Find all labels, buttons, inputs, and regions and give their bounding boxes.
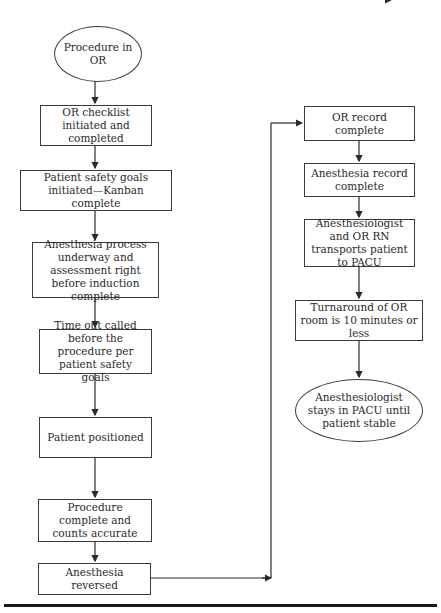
node-procedure-in-or: Procedure in OR: [54, 26, 142, 82]
node-patient-safety-goals: Patient safety goals initiated—Kanban co…: [20, 170, 172, 211]
flowchart-canvas: Procedure in OR OR checklist initiated a…: [0, 0, 441, 613]
node-patient-positioned: Patient positioned: [39, 417, 152, 458]
node-time-out: Time out called before the procedure per…: [39, 329, 152, 374]
node-anesthesiologist-stays: Anesthesiologist stays in PACU until pat…: [295, 379, 423, 442]
node-anesthesia-process: Anesthesia process underway and assessme…: [32, 242, 159, 298]
node-transport-to-pacu: Anesthesiologist and OR RN transports pa…: [304, 219, 415, 267]
node-anesthesia-record: Anesthesia record complete: [304, 163, 415, 197]
node-anesthesia-reversed: Anesthesia reversed: [38, 563, 151, 595]
node-or-record-complete: OR record complete: [304, 106, 415, 141]
bottom-rule: [4, 604, 437, 607]
node-procedure-complete: Procedure complete and counts accurate: [38, 499, 152, 542]
node-or-turnaround: Turnaround of OR room is 10 minutes or l…: [295, 300, 423, 341]
node-or-checklist: OR checklist initiated and completed: [40, 105, 152, 146]
